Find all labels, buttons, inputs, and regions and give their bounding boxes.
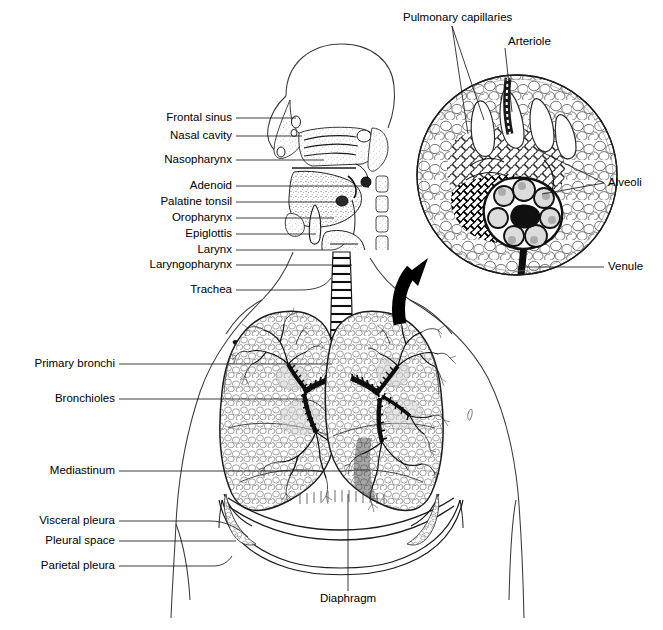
label-pleural-space: Pleural space (45, 535, 115, 547)
label-bronchioles: Bronchioles (55, 393, 115, 405)
label-oropharynx: Oropharynx (172, 212, 232, 224)
label-palatine-tonsil: Palatine tonsil (160, 196, 232, 208)
label-venule: Venule (608, 261, 643, 273)
label-primary-bronchi: Primary bronchi (34, 358, 115, 370)
label-alveoli: Alveoli (608, 177, 642, 189)
magnification-arrow (399, 258, 429, 324)
label-nasopharynx: Nasopharynx (164, 154, 232, 166)
label-nasal-cavity: Nasal cavity (170, 130, 232, 142)
label-visceral-pleura: Visceral pleura (39, 515, 115, 527)
label-parietal-pleura: Parietal pleura (41, 560, 115, 572)
label-adenoid: Adenoid (190, 180, 232, 192)
label-laryngopharynx: Laryngopharynx (150, 259, 232, 271)
label-epiglottis: Epiglottis (185, 228, 232, 240)
label-larynx: Larynx (197, 244, 232, 256)
label-trachea: Trachea (190, 284, 232, 296)
label-diaphragm: Diaphragm (320, 593, 376, 605)
right-lung (325, 310, 456, 512)
label-pulmonary-capillaries: Pulmonary capillaries (403, 12, 512, 24)
label-frontal-sinus: Frontal sinus (166, 112, 232, 124)
label-arteriole: Arteriole (508, 36, 551, 48)
head-sagittal-section (274, 100, 388, 275)
label-mediastinum: Mediastinum (50, 465, 115, 477)
respiratory-system-figure: Frontal sinus Nasal cavity Nasopharynx A… (0, 0, 663, 630)
alveoli-magnification-circle (417, 75, 617, 282)
alveolar-sac-cluster (484, 178, 563, 249)
